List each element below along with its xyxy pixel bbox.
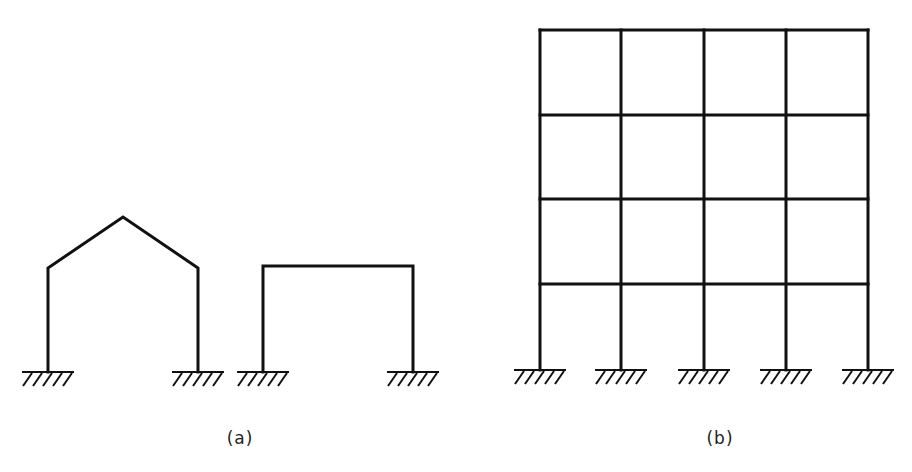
hatch-mark [278,373,287,386]
hatch-mark [43,373,52,386]
hatch-mark [853,371,862,384]
structural-frames-diagram [0,0,912,472]
hatch-mark [771,371,780,384]
hatch-mark [388,373,397,386]
hatch-mark [203,373,212,386]
hatch-mark [23,373,32,386]
hatch-mark [268,373,277,386]
hatch-mark [863,371,872,384]
hatch-mark [525,371,534,384]
fixed-support-icon [514,370,566,384]
fixed-support-icon [172,372,224,386]
panel-b-multistorey-frame [514,30,894,384]
hatch-mark [545,371,554,384]
hatch-mark [596,371,605,384]
hatch-mark [238,373,247,386]
hatch-mark [418,373,427,386]
hatch-mark [719,371,728,384]
hatch-mark [193,373,202,386]
hatch-mark [33,373,42,386]
hatch-mark [883,371,892,384]
hatch-mark [689,371,698,384]
portal-frame [237,266,439,386]
fixed-support-icon [237,372,289,386]
fixed-support-icon [595,370,647,384]
panel-b-label: (b) [706,428,733,448]
hatch-mark [636,371,645,384]
hatch-mark [626,371,635,384]
hatch-mark [428,373,437,386]
hatch-mark [213,373,222,386]
portal-frame-members [263,266,413,372]
hatch-mark [53,373,62,386]
hatch-mark [709,371,718,384]
hatch-mark [183,373,192,386]
hatch-mark [781,371,790,384]
fixed-support-icon [678,370,730,384]
hatch-mark [173,373,182,386]
hatch-mark [699,371,708,384]
hatch-mark [63,373,72,386]
hatch-mark [873,371,882,384]
hatch-mark [408,373,417,386]
hatch-mark [761,371,770,384]
hatch-mark [843,371,852,384]
hatch-mark [535,371,544,384]
fixed-support-icon [760,370,812,384]
hatch-mark [515,371,524,384]
fixed-support-icon [22,372,74,386]
hatch-mark [248,373,257,386]
hatch-mark [258,373,267,386]
hatch-mark [616,371,625,384]
hatch-mark [398,373,407,386]
hatch-mark [801,371,810,384]
multi-storey-frame [514,30,894,384]
hatch-mark [555,371,564,384]
hatch-mark [791,371,800,384]
panel-a-label: (a) [227,428,254,448]
gable-frame [22,217,224,386]
hatch-mark [606,371,615,384]
fixed-support-icon [387,372,439,386]
gable-frame-members [48,217,198,372]
fixed-support-icon [842,370,894,384]
panel-a-frames [22,217,439,386]
hatch-mark [679,371,688,384]
